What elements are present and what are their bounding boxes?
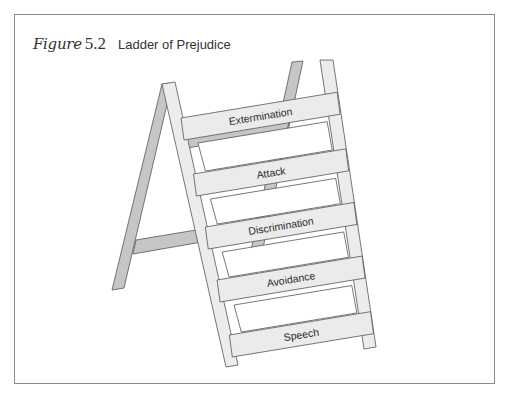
ladder-rungs: ExterminationAttackDiscriminationAvoidan… <box>181 92 374 357</box>
back-left-leg <box>112 83 172 290</box>
ladder-diagram: ExterminationAttackDiscriminationAvoidan… <box>0 0 507 399</box>
